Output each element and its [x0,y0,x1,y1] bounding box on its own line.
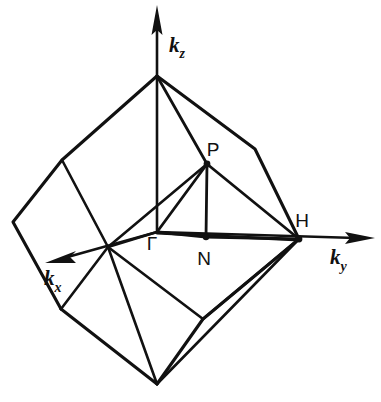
label-h: H [295,210,309,231]
edge-top-to-p [157,76,207,164]
ky-axis-label-base: k [330,245,341,269]
edge-bottom-to-h [157,239,299,384]
kx-axis-label: kx [44,266,62,295]
p-vertex-dot [204,161,211,168]
kz-axis-label-base: k [169,33,180,57]
brillouin-zone-drawing: Γ P N H kz ky kx [0,0,381,402]
label-n: N [197,248,211,269]
n-vertex-dot [203,234,209,240]
label-p: P [207,139,220,160]
irreducible-wedge-group [157,76,299,240]
zone-outline-upper-right [157,76,299,239]
axes-group [45,5,375,263]
kz-axis-label-subscript: z [179,46,186,61]
kz-axis-label: kz [169,33,186,61]
brillouin-zone-figure: Γ P N H kz ky kx [0,0,381,402]
h-vertex-dot [296,236,303,243]
ky-axis-label-subscript: y [339,259,348,274]
axis-labels-group: kz ky kx [44,33,348,295]
ky-axis-label: ky [330,245,348,274]
edge-p-to-n [206,164,207,237]
bottom-whitespace-strip [0,392,381,402]
edge-upperleft-to-frontleft [62,160,108,247]
edge-p-to-h [207,164,299,239]
kx-axis-label-base: k [44,266,55,290]
label-gamma: Γ [147,233,157,254]
zone-outline-upper-left [13,76,157,309]
kx-axis-label-subscript: x [54,280,62,295]
edge-frontlowermid-to-h [203,239,299,319]
